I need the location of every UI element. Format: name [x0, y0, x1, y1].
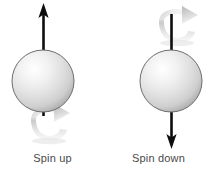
rotation-arrow-icon — [159, 6, 198, 46]
particle-sphere — [12, 50, 74, 112]
spin-diagram: Spin up — [0, 0, 211, 179]
caption-spin-up: Spin up — [0, 151, 105, 165]
figure-spin-down: Spin down — [106, 0, 211, 179]
figure-spin-up: Spin up — [0, 0, 105, 179]
spin-up-illustration — [0, 0, 105, 152]
caption-spin-down: Spin down — [106, 151, 211, 165]
particle-sphere — [140, 50, 202, 112]
spin-down-illustration — [106, 0, 211, 152]
